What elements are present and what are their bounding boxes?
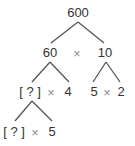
unknown-factor-1: [ ? ]: [19, 85, 41, 99]
multiply-operator: ×: [103, 86, 110, 100]
node-60: 60: [43, 46, 57, 60]
branch-600-to-10: [78, 22, 104, 43]
branch-10-to-2: [106, 62, 120, 82]
node-5: 5: [90, 85, 97, 99]
node-4: 4: [64, 85, 71, 99]
multiply-operator: ×: [47, 86, 54, 100]
branch-unknown-to-unknown: [15, 101, 32, 121]
node-5-bottom: 5: [48, 125, 55, 139]
multiply-operator: ×: [31, 126, 38, 140]
branch-unknown-to-5: [32, 101, 52, 121]
node-2: 2: [117, 85, 124, 99]
branch-60-to-4: [50, 62, 69, 82]
node-10: 10: [98, 46, 112, 60]
unknown-factor-2: [ ? ]: [3, 125, 25, 139]
branch-60-to-unknown: [32, 62, 50, 82]
branch-600-to-60: [51, 22, 78, 43]
multiply-operator: ×: [73, 47, 80, 61]
branch-10-to-5: [93, 62, 106, 82]
root-node: 600: [67, 6, 89, 20]
